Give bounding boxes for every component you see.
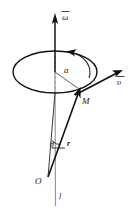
label-velocity-v: υ (117, 77, 121, 87)
label-angle-theta: θ (50, 140, 54, 149)
label-axis-l: l (59, 192, 62, 201)
label-radius-a: a (64, 65, 69, 75)
position-vector-shaft (48, 94, 78, 178)
diagram-canvas: ω a υ M θ r O l (0, 0, 128, 208)
label-point-M: M (81, 96, 90, 106)
triangle-left-leg (48, 93, 55, 177)
label-origin-O: O (35, 176, 42, 186)
label-position-r: r (67, 139, 71, 148)
label-omega: ω (62, 12, 68, 22)
rotation-direction-arc (70, 52, 90, 78)
physics-diagram-rotating-body: ω a υ M θ r O l (0, 0, 128, 208)
